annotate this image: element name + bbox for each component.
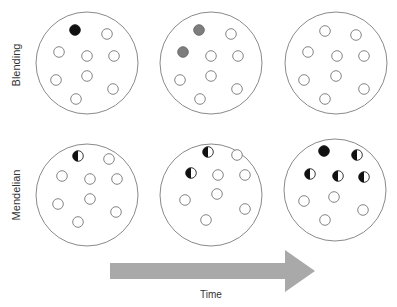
population-panel xyxy=(284,139,386,241)
population-panel xyxy=(160,144,262,246)
population-circle xyxy=(284,139,386,241)
individual-white xyxy=(212,189,223,200)
population-circle xyxy=(285,12,387,114)
individual-white xyxy=(206,51,217,62)
individual-white xyxy=(201,215,212,226)
individual-white xyxy=(233,51,244,62)
population-circle xyxy=(160,12,262,114)
individual-white xyxy=(111,207,122,218)
individual-white xyxy=(320,94,331,105)
population-panel xyxy=(36,12,138,114)
individual-white xyxy=(53,199,64,210)
individual-white xyxy=(303,47,314,58)
individual-white xyxy=(232,84,243,95)
individual-white xyxy=(73,217,84,228)
population-circle xyxy=(160,144,262,246)
individual-white xyxy=(320,215,331,226)
individual-white xyxy=(359,84,370,95)
individual-white xyxy=(85,194,96,205)
individual-half xyxy=(73,151,84,162)
individual-half xyxy=(203,147,214,158)
individual-white xyxy=(54,47,65,58)
time-arrow xyxy=(110,250,315,292)
population-panel xyxy=(285,12,387,114)
individual-white xyxy=(351,30,362,41)
individual-white xyxy=(240,204,251,215)
individual-white xyxy=(57,171,68,182)
individual-white xyxy=(82,51,93,62)
time-label: Time xyxy=(200,289,222,300)
individual-half xyxy=(352,150,363,161)
individual-white xyxy=(195,94,206,105)
individual-white xyxy=(299,196,310,207)
individual-white xyxy=(180,195,191,206)
population-panel xyxy=(36,144,138,246)
individual-white xyxy=(299,75,310,86)
individual-white xyxy=(82,71,93,82)
individual-white xyxy=(108,84,119,95)
individual-white xyxy=(320,26,331,37)
individual-white xyxy=(112,174,123,185)
individual-white xyxy=(51,75,62,86)
row-label-mendelian: Mendelian xyxy=(10,170,22,221)
individual-half xyxy=(186,168,197,179)
individual-grey xyxy=(194,25,205,36)
individual-half xyxy=(359,172,370,183)
individual-white xyxy=(213,170,224,181)
individual-black xyxy=(70,25,81,36)
population-panel xyxy=(160,12,262,114)
individual-half xyxy=(305,169,316,180)
arrow-shape xyxy=(110,250,315,292)
individual-white xyxy=(329,192,340,203)
individual-white xyxy=(175,75,186,86)
individual-black xyxy=(319,146,330,157)
individual-grey xyxy=(178,47,189,58)
individual-white xyxy=(109,51,120,62)
individual-white xyxy=(358,205,369,216)
individual-white xyxy=(85,174,96,185)
individual-white xyxy=(226,29,237,40)
panels-group xyxy=(36,12,387,246)
individual-white xyxy=(206,71,217,82)
blending-vs-mendelian-diagram: Blending Mendelian Time xyxy=(0,0,397,307)
row-label-blending: Blending xyxy=(10,44,22,87)
individual-white xyxy=(102,29,113,40)
individual-half xyxy=(333,171,344,182)
individual-white xyxy=(240,170,251,181)
individual-white xyxy=(104,154,115,165)
population-circle xyxy=(36,12,138,114)
individual-white xyxy=(331,71,342,82)
individual-white xyxy=(332,51,343,62)
individual-white xyxy=(232,150,243,161)
individual-white xyxy=(359,51,370,62)
individual-white xyxy=(71,94,82,105)
